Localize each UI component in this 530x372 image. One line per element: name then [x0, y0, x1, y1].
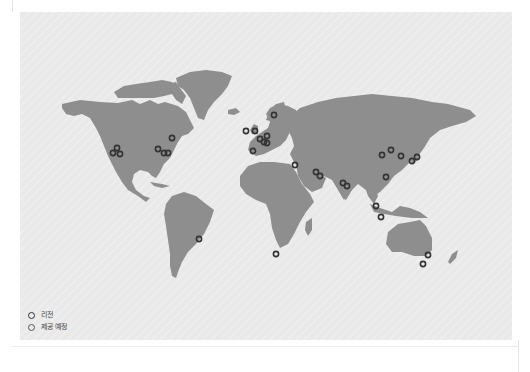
- region-marker[interactable]: [420, 261, 425, 266]
- region-marker[interactable]: [243, 128, 248, 133]
- coming-soon-marker-icon: [28, 324, 35, 331]
- region-marker[interactable]: [273, 251, 278, 256]
- caribbean: [150, 182, 170, 188]
- region-marker[interactable]: [425, 252, 430, 257]
- world-map: [0, 0, 530, 372]
- landmasses: [62, 70, 476, 278]
- region-marker-icon: [28, 312, 35, 319]
- legend-label-region: 리전: [41, 310, 53, 320]
- map-legend: 리전 제공 예정: [28, 310, 67, 334]
- region-marker[interactable]: [292, 162, 297, 167]
- arctic-islands: [114, 80, 178, 98]
- north-america: [62, 100, 194, 202]
- region-marker[interactable]: [378, 214, 383, 219]
- legend-label-coming-soon: 제공 예정: [41, 322, 67, 332]
- madagascar: [305, 218, 312, 236]
- region-marker[interactable]: [373, 203, 378, 208]
- iceland: [228, 108, 240, 115]
- south-america: [164, 192, 214, 278]
- legend-item-coming-soon: 제공 예정: [28, 322, 67, 332]
- australia: [386, 220, 432, 256]
- new-zealand: [448, 250, 458, 264]
- legend-item-region: 리전: [28, 310, 67, 320]
